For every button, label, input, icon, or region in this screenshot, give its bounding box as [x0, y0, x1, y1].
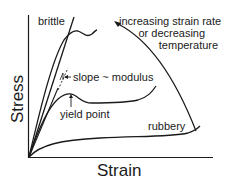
curve-ductile-high	[29, 30, 97, 157]
label-slope-modulus: slope ~ modulus	[73, 71, 153, 83]
label-trend-line2: or decreasing	[119, 27, 221, 39]
stress-strain-diagram: brittle increasing strain rate or decrea…	[0, 0, 229, 186]
label-trend: increasing strain rate or decreasing tem…	[119, 15, 221, 51]
slope-arrowhead-icon	[64, 75, 68, 79]
label-trend-line1: increasing strain rate	[119, 15, 221, 27]
label-rubbery: rubbery	[148, 120, 185, 132]
label-yield-point: yield point	[60, 108, 110, 120]
label-brittle: brittle	[38, 15, 65, 27]
label-trend-line3: temperature	[119, 39, 221, 51]
x-axis-label: Strain	[97, 162, 141, 180]
slope-triangle-icon	[60, 73, 63, 80]
curve-brittle	[29, 17, 74, 157]
y-axis-label: Stress	[9, 75, 27, 123]
